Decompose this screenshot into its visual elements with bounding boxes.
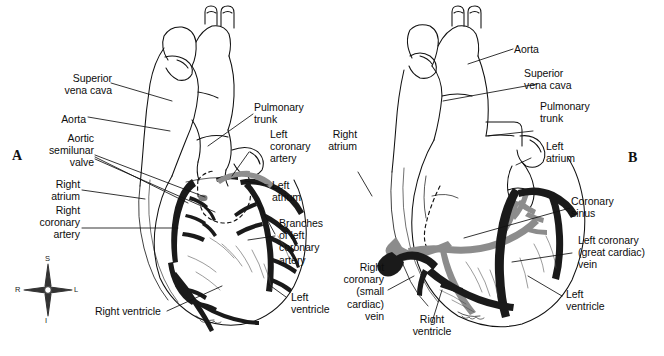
label-right-atrium-a: Right atrium [24,178,80,202]
panel-letter-a: A [12,148,22,164]
valve-node-anterior [199,195,208,201]
heart-anterior-outline [139,6,307,325]
label-left-ventricle-b: Left ventricle [566,288,620,312]
label-superior-vena-cava-a: Superior vena cava [40,72,112,96]
label-aorta-a: Aorta [40,113,86,125]
label-right-ventricle-b: Right ventricle [398,313,466,337]
cardiac-veins [377,187,578,318]
label-left-coronary-great-cardiac-vein-b: Left coronary (great cardiac) vein [578,234,664,271]
orientation-compass [24,264,72,316]
label-left-atrium-a: Left atrium [272,179,322,203]
compass-right-label: R [15,285,20,294]
coronary-circulation-figure: A Superior vena cava Aorta Aortic semilu… [0,0,664,356]
compass-inferior-label: I [45,316,47,325]
posterior-dashed-path [404,186,440,252]
compass-superior-label: S [45,254,50,263]
label-right-ventricle-a: Right ventricle [95,305,185,317]
label-aorta-b: Aorta [514,43,558,55]
label-right-coronary-small-cardiac-vein-b: Right coronary (small cardiac) vein [322,261,384,322]
label-coronary-sinus-b: Coronary sinus [571,195,633,219]
label-branches-of-left-coronary-artery-a: Branches of left coronary artery [279,217,337,266]
label-pulmonary-trunk-b: Pulmonary trunk [540,100,604,124]
label-right-atrium-b: Right atrium [305,128,357,152]
label-pulmonary-trunk-a: Pulmonary trunk [254,101,318,125]
label-aortic-semilunar-valve-a: Aortic semilunar valve [28,132,94,169]
panel-letter-b: B [628,150,637,166]
label-right-coronary-artery-a: Right coronary artery [12,204,80,241]
compass-left-label: L [74,285,78,294]
label-left-atrium-b: Left atrium [546,140,596,164]
label-superior-vena-cava-b: Superior vena cava [524,67,596,91]
